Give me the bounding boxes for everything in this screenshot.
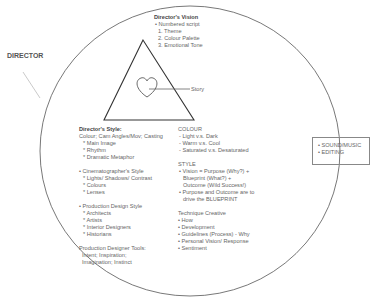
style2-line: Outcome (Wild Success!) [183, 182, 246, 189]
style2-heading: STYLE [178, 161, 196, 168]
colour-heading: COLOUR [178, 126, 202, 133]
vision-item: 1. Theme [158, 28, 182, 35]
cine-line: * Lights/ Shadows/ Contrast [83, 175, 152, 182]
vision-item: 3. Emotional Tone [158, 42, 203, 49]
director-label: DIRECTOR [7, 52, 43, 59]
style2-line: • Purpose and Outcome are to [179, 189, 254, 196]
style-line: * Dramatic Metaphor [83, 154, 134, 161]
story-label: Story [191, 86, 204, 93]
pd-line: * Interior Designers [83, 224, 131, 231]
colour-line: - Light v.s. Dark [179, 133, 218, 140]
pd-line: * Artists [83, 217, 102, 224]
box-line: • EDITING [318, 149, 369, 156]
style2-line: Blueprint (What?) + [183, 175, 231, 182]
pd-line: • Production Design Style [79, 203, 142, 210]
technique-line: • Guidelines (Process) - Why [178, 231, 250, 238]
heart-icon [137, 78, 157, 97]
style2-line: • Vision = Purpose (Why?) + [179, 168, 249, 175]
pd-line: * Architects [83, 210, 111, 217]
vision-item: 2. Colour Palette [158, 35, 200, 42]
technique-line: • How [178, 217, 193, 224]
style-line: * Rhythm [83, 147, 106, 154]
style-line: * Main Image [83, 140, 116, 147]
style-heading: Director's Style: [79, 126, 122, 133]
style2-line: drive the BLUEPRINT [183, 196, 237, 203]
vision-heading: Director's Vision [154, 14, 198, 21]
technique-line: • Sentiment [178, 245, 207, 252]
cine-line: * Colours [83, 182, 106, 189]
technique-line: • Development [178, 224, 214, 231]
director-leader-line [23, 72, 40, 98]
colour-line: - Saturated v.s. Desaturated [179, 147, 249, 154]
box-line: • SOUND/MUSIC [318, 142, 369, 149]
style-line: Colour; Cam Angles/Mov; Casting [79, 133, 163, 140]
sound-editing-box: • SOUND/MUSIC • EDITING [312, 137, 370, 165]
cine-line: • Cinematographer's Style [79, 168, 144, 175]
tools-line: Imagination; Instinct [82, 259, 132, 266]
vision-item: • Numbered script [155, 21, 200, 28]
story-triangle [104, 40, 194, 120]
colour-line: - Warm v.s. Cool [179, 140, 220, 147]
technique-heading: Technique Creative [178, 210, 226, 217]
cine-line: * Lenses [83, 189, 105, 196]
tools-line: Production Designer Tools: [79, 245, 146, 252]
tools-line: Intent; Inspiration; [82, 252, 126, 259]
pd-line: * Historians [83, 231, 112, 238]
technique-line: • Personal Vision/ Response [178, 238, 249, 245]
